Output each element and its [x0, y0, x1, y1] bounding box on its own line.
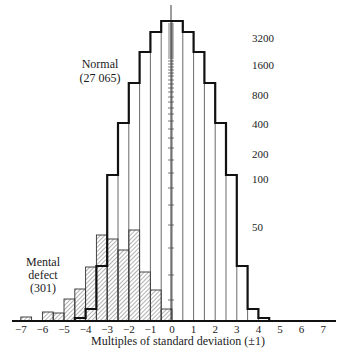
mental-defect-bar: [75, 289, 86, 321]
mental-defect-label-line2: defect: [28, 268, 58, 282]
frequency-label: 400: [252, 118, 269, 130]
mental-defect-bar: [96, 235, 107, 321]
frequency-label: 200: [252, 148, 269, 160]
normal-count-label: (27 065): [80, 71, 121, 85]
mental-defect-bar: [129, 230, 140, 321]
frequency-label: 100: [252, 173, 269, 185]
mental-defect-bar: [42, 312, 53, 321]
mental-defect-count-label: (301): [30, 281, 56, 295]
mental-defect-label-line1: Mental: [26, 255, 61, 269]
frequency-label: 1600: [252, 59, 275, 71]
x-tick-label: 6: [299, 323, 305, 335]
histogram-chart: −7−6−5−4−3−2−101234567 32001600800400200…: [0, 0, 342, 354]
center-frequency-axis: [168, 5, 174, 321]
normal-label: Normal: [82, 57, 119, 71]
mental-defect-bar: [150, 290, 161, 321]
x-axis-title: Multiples of standard deviation (±1): [91, 334, 265, 348]
x-tick-label: −5: [58, 323, 70, 335]
x-tick-label: 5: [277, 323, 283, 335]
x-tick-label: 7: [320, 323, 326, 335]
mental-defect-bar: [161, 309, 172, 321]
frequency-label: 50: [252, 221, 264, 233]
mental-defect-bar: [140, 272, 151, 321]
mental-defect-bar: [107, 239, 118, 321]
frequency-label: 3200: [252, 32, 275, 44]
x-tick-label: −6: [37, 323, 49, 335]
mental-defect-bar: [64, 299, 75, 321]
mental-defect-bar: [118, 250, 129, 321]
mental-defect-bar: [86, 267, 97, 321]
mental-defect-bar: [53, 313, 64, 321]
frequency-label: 800: [252, 89, 269, 101]
frequency-scale-labels: 3200160080040020010050: [252, 32, 275, 233]
x-tick-label: −7: [15, 323, 27, 335]
